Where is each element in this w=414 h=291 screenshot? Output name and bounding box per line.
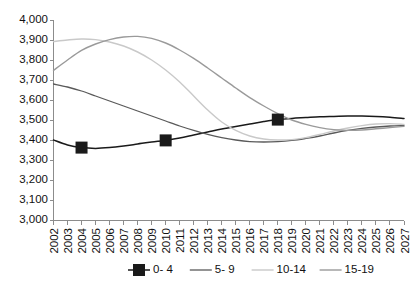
- x-axis-tick-label: 2011: [174, 228, 186, 253]
- x-axis-tick-label: 2003: [62, 228, 74, 254]
- x-axis-tick-label: 2021: [314, 228, 326, 254]
- y-axis-tick-label: 3,600: [19, 93, 48, 105]
- y-axis-tick-marks: [50, 21, 54, 221]
- y-axis-tick-label: 4,000: [19, 13, 48, 25]
- x-axis-tick-label: 2027: [399, 228, 411, 254]
- legend-item[interactable]: 0- 4: [128, 263, 173, 276]
- y-axis-tick-label: 3,100: [19, 193, 48, 205]
- x-axis-tick-label: 2008: [132, 228, 144, 254]
- legend-item[interactable]: 15-19: [320, 263, 374, 275]
- x-axis-tick-labels: 2002200320042005200620072008200920102011…: [48, 227, 411, 253]
- y-axis-tick-label: 3,400: [19, 133, 48, 145]
- legend-item-label: 0- 4: [153, 263, 173, 275]
- line-chart: 4,0003,9003,8003,7003,6003,5003,4003,300…: [0, 0, 414, 291]
- series-marker-square: [272, 114, 284, 126]
- y-axis-tick-label: 3,900: [19, 33, 48, 45]
- series-marker-square: [160, 134, 172, 146]
- y-axis-tick-label: 3,800: [19, 53, 48, 65]
- legend-item-label: 5- 9: [215, 263, 235, 275]
- x-axis-tick-label: 2020: [300, 228, 312, 254]
- x-axis-tick-label: 2023: [342, 228, 354, 254]
- axis-lines: [54, 20, 405, 221]
- legend-square-marker: [133, 264, 145, 276]
- x-axis-tick-label: 2015: [230, 228, 242, 254]
- x-axis-tick-label: 2012: [188, 228, 200, 254]
- y-axis-tick-label: 3,000: [19, 213, 48, 225]
- x-axis-tick-label: 2009: [146, 228, 158, 254]
- x-axis-tick-label: 2004: [76, 227, 88, 253]
- series-line-2: [54, 39, 405, 140]
- x-axis-tick-label: 2005: [90, 228, 102, 254]
- y-axis-tick-label: 3,200: [19, 173, 48, 185]
- x-axis-tick-label: 2010: [160, 228, 172, 254]
- x-axis-tick-label: 2018: [272, 228, 284, 254]
- series-lines-group: [54, 36, 405, 148]
- x-axis-tick-label: 2002: [48, 228, 60, 254]
- legend-item-label: 10-14: [277, 263, 307, 275]
- series-line-1: [54, 84, 405, 142]
- y-axis-tick-label: 3,700: [19, 73, 48, 85]
- x-axis-tick-label: 2024: [356, 227, 368, 253]
- series-line-0: [54, 116, 405, 148]
- x-axis-tick-label: 2006: [104, 228, 116, 254]
- x-axis-tick-label: 2013: [202, 228, 214, 254]
- series-marker-square: [76, 142, 88, 154]
- x-axis-tick-label: 2025: [370, 228, 382, 254]
- x-axis-tick-label: 2019: [286, 228, 298, 254]
- x-axis-tick-label: 2007: [118, 228, 130, 254]
- x-axis-tick-label: 2016: [244, 228, 256, 254]
- legend-item-label: 15-19: [345, 263, 374, 275]
- x-axis-tick-label: 2026: [384, 228, 396, 254]
- x-axis-tick-label: 2017: [258, 228, 270, 254]
- legend-item[interactable]: 5- 9: [190, 263, 235, 275]
- y-axis-tick-label: 3,500: [19, 113, 48, 125]
- x-axis-tick-label: 2014: [216, 227, 228, 253]
- chart-canvas: 4,0003,9003,8003,7003,6003,5003,4003,300…: [0, 0, 414, 291]
- chart-legend: 0- 45- 910-1415-19: [128, 263, 374, 276]
- x-axis-tick-label: 2022: [328, 228, 340, 254]
- legend-item[interactable]: 10-14: [252, 263, 307, 275]
- x-axis-tick-marks: [54, 221, 405, 225]
- y-axis-tick-labels: 4,0003,9003,8003,7003,6003,5003,4003,300…: [19, 13, 48, 225]
- y-axis-tick-label: 3,300: [19, 153, 48, 165]
